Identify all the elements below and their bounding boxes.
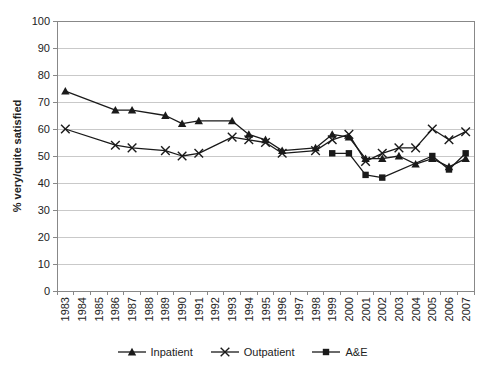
x-tick-label: 1992 xyxy=(209,297,221,321)
square-marker-icon xyxy=(446,166,452,172)
square-marker-icon xyxy=(329,150,335,156)
x-tick-label: 1986 xyxy=(109,297,121,321)
series-line-outpatient xyxy=(65,129,465,161)
x-tick-label: 1987 xyxy=(126,297,138,321)
x-tick-label: 2006 xyxy=(443,297,455,321)
x-tick-label: 2007 xyxy=(460,297,472,321)
legend-label-inpatient: Inpatient xyxy=(151,346,193,358)
legend-label-a-e: A&E xyxy=(345,346,367,358)
x-tick-label: 2005 xyxy=(426,297,438,321)
legend-label-outpatient: Outpatient xyxy=(244,346,295,358)
x-tick-label: 1994 xyxy=(243,297,255,321)
y-tick-label: 20 xyxy=(38,231,50,243)
square-marker-icon xyxy=(346,150,352,156)
y-tick-label: 90 xyxy=(38,42,50,54)
x-tick-label: 1997 xyxy=(293,297,305,321)
square-marker-icon xyxy=(362,172,368,178)
x-tick-label: 1990 xyxy=(176,297,188,321)
legend-item-inpatient: Inpatient xyxy=(118,346,193,358)
square-marker-icon xyxy=(323,349,329,355)
y-tick-label: 70 xyxy=(38,96,50,108)
square-marker-icon xyxy=(379,174,385,180)
x-marker-icon xyxy=(211,347,239,357)
x-tick-label: 2004 xyxy=(410,297,422,321)
satisfaction-chart: % very/quite satisfied 01020304050607080… xyxy=(0,0,485,369)
y-tick-label: 40 xyxy=(38,177,50,189)
x-tick-label: 2003 xyxy=(393,297,405,321)
x-tick-label: 1991 xyxy=(193,297,205,321)
square-marker-icon xyxy=(462,150,468,156)
square-marker-icon xyxy=(312,347,340,357)
x-tick-label: 1995 xyxy=(260,297,272,321)
legend: InpatientOutpatientA&E xyxy=(0,343,485,361)
x-tick-label: 1999 xyxy=(326,297,338,321)
y-tick-label: 60 xyxy=(38,123,50,135)
triangle-marker-icon xyxy=(61,87,69,95)
y-tick-label: 80 xyxy=(38,69,50,81)
x-tick-label: 1989 xyxy=(159,297,171,321)
square-marker-icon xyxy=(429,153,435,159)
line-chart-plot: 0102030405060708090100198319841985198619… xyxy=(0,0,485,369)
x-tick-label: 1983 xyxy=(59,297,71,321)
x-tick-label: 1988 xyxy=(143,297,155,321)
x-tick-label: 1998 xyxy=(310,297,322,321)
triangle-marker-icon xyxy=(118,347,146,357)
x-tick-label: 1985 xyxy=(93,297,105,321)
y-tick-label: 100 xyxy=(32,15,50,27)
legend-item-a-e: A&E xyxy=(312,346,367,358)
x-tick-label: 1984 xyxy=(76,297,88,321)
legend-item-outpatient: Outpatient xyxy=(211,346,295,358)
y-tick-label: 30 xyxy=(38,204,50,216)
x-tick-label: 2002 xyxy=(376,297,388,321)
y-tick-label: 10 xyxy=(38,258,50,270)
y-tick-label: 50 xyxy=(38,150,50,162)
x-tick-label: 2001 xyxy=(360,297,372,321)
y-tick-label: 0 xyxy=(44,285,50,297)
x-tick-label: 2000 xyxy=(343,297,355,321)
x-tick-label: 1993 xyxy=(226,297,238,321)
x-tick-label: 1996 xyxy=(276,297,288,321)
